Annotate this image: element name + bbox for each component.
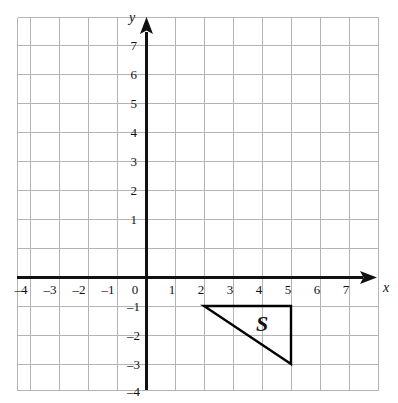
y-tick-label: 5 [131, 96, 138, 111]
y-tick-label: 3 [131, 154, 138, 169]
y-tick-label: –3 [126, 357, 140, 372]
x-tick-label-origin: 0 [132, 282, 139, 297]
y-tick-label: –4 [126, 384, 141, 399]
x-tick-label: –4 [14, 282, 29, 297]
y-tick-label: –2 [126, 328, 140, 343]
y-tick-label: –1 [126, 299, 140, 314]
y-tick-label: 4 [131, 125, 138, 140]
y-tick-label: 6 [131, 67, 138, 82]
x-tick-label: 6 [314, 282, 321, 297]
x-tick-label: 4 [256, 282, 263, 297]
x-tick-label: –1 [101, 282, 115, 297]
x-tick-label: 2 [198, 282, 205, 297]
y-tick-label: 1 [131, 212, 138, 227]
y-axis-label: y [127, 10, 136, 25]
x-axis-label: x [382, 280, 390, 295]
coordinate-plane: y x –4 –3 –2 –1 0 1 2 3 4 5 6 7 7 6 5 4 … [0, 0, 398, 403]
x-tick-label: 3 [227, 282, 234, 297]
y-tick-label: 2 [131, 183, 138, 198]
coordinate-grid-figure: y x –4 –3 –2 –1 0 1 2 3 4 5 6 7 7 6 5 4 … [0, 0, 398, 403]
x-tick-label: –3 [43, 282, 57, 297]
y-tick-label: 7 [131, 38, 138, 53]
x-tick-label: 5 [285, 282, 292, 297]
x-tick-label: 1 [169, 282, 176, 297]
x-tick-label: 7 [343, 282, 350, 297]
x-tick-label: –2 [72, 282, 86, 297]
shape-s-label: S [256, 311, 268, 336]
